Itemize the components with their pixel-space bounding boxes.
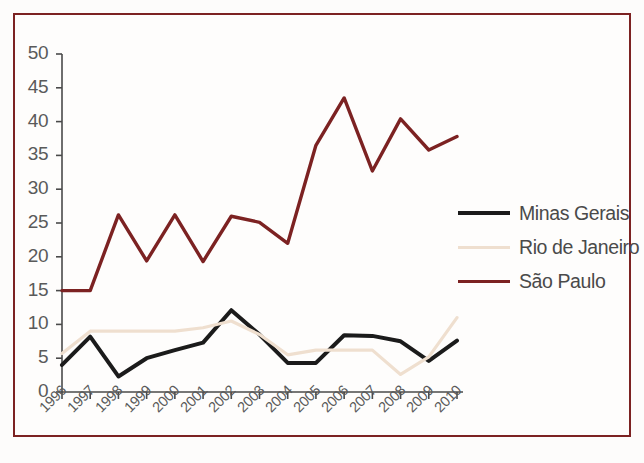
y-tick-label: 15	[14, 279, 48, 301]
legend-item[interactable]: Minas Gerais	[458, 196, 636, 230]
y-tick-label: 40	[14, 110, 48, 132]
y-tick-label: 30	[14, 177, 48, 199]
y-tick-label: 25	[14, 211, 48, 233]
y-tick-label: 5	[14, 346, 48, 368]
legend-swatch-icon	[458, 280, 510, 283]
legend-label: Rio de Janeiro	[519, 236, 639, 259]
legend-item[interactable]: Rio de Janeiro	[458, 230, 636, 264]
y-tick-label: 20	[14, 245, 48, 267]
y-tick-label: 50	[14, 42, 48, 64]
legend-swatch-icon	[458, 246, 510, 249]
line-chart-figure: 05101520253035404550 1996199719981999200…	[0, 0, 644, 463]
y-tick-label: 10	[14, 312, 48, 334]
legend-label: Minas Gerais	[519, 202, 629, 225]
legend-label: São Paulo	[519, 270, 605, 293]
legend-item[interactable]: São Paulo	[458, 264, 636, 298]
y-tick-label: 45	[14, 76, 48, 98]
legend-swatch-icon	[458, 211, 510, 215]
chart-legend: Minas GeraisRio de JaneiroSão Paulo	[458, 196, 636, 298]
y-tick-label: 35	[14, 143, 48, 165]
